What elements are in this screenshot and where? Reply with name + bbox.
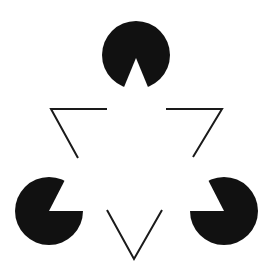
kanizsa-figure: [0, 0, 273, 278]
